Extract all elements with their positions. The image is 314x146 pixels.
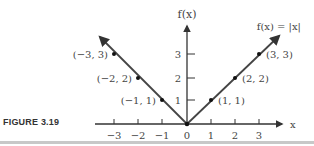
y-tick-label: 1 <box>175 95 181 106</box>
x-tick-label: 2 <box>232 130 238 141</box>
x-tick-label: 1 <box>208 130 214 141</box>
x-tick-label: −1 <box>155 130 170 141</box>
figure-caption: FIGURE 3.19 <box>3 117 59 127</box>
bottom-rule <box>0 141 314 144</box>
y-axis-label: f(x) <box>178 8 197 21</box>
x-tick-label: 3 <box>256 130 262 141</box>
x-tick-label: −2 <box>131 130 146 141</box>
point-label: (−3, 3) <box>73 49 108 60</box>
x-axis-label: x <box>290 119 296 130</box>
point-label: (−2, 2) <box>97 73 132 84</box>
function-label: f(x) = |x| <box>257 21 301 33</box>
figure: −3 −2 −1 0 1 2 3 1 2 3 x f(x) f(x) = |x|… <box>0 0 314 146</box>
y-tick-label: 3 <box>175 49 181 60</box>
y-tick-label: 2 <box>175 73 181 84</box>
point-label: (1, 1) <box>218 95 245 106</box>
point-label: (3, 3) <box>266 49 293 60</box>
x-tick-label: 0 <box>184 130 190 141</box>
point-label: (−1, 1) <box>121 95 156 106</box>
point-label: (2, 2) <box>242 73 269 84</box>
x-tick-label: −3 <box>107 130 122 141</box>
